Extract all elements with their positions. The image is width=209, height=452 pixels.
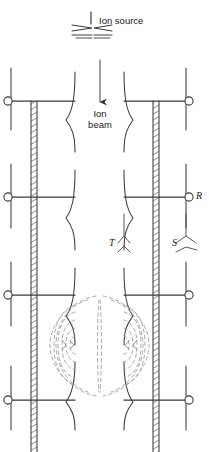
dashed-field-line-icon (50, 296, 149, 396)
schematic-figure (0, 0, 209, 452)
hatched-electrode-icon (31, 101, 159, 452)
electrode-label-t: T (109, 237, 115, 248)
ion-beam-label-line2: beam (80, 119, 120, 130)
electrode-label-s: S (172, 237, 177, 248)
left-electrode-assembly (8, 68, 75, 430)
diagram-canvas: Ion source Ion beam R T S (0, 0, 209, 452)
ion-source-label: Ion source (99, 15, 143, 26)
electrode-label-r: R (196, 190, 202, 201)
ion-beam-label-line1: Ion (80, 108, 120, 119)
